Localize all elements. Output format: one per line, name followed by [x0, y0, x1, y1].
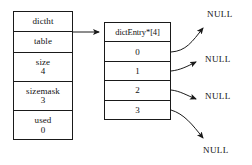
struct-field-table: table: [14, 32, 72, 53]
null-label-0: NULL: [207, 9, 233, 19]
null-label-3: NULL: [203, 145, 229, 155]
dictht-struct-box: dictht table size 4 sizemask 3 used 0: [13, 11, 73, 140]
diagram-canvas: dictht table size 4 sizemask 3 used 0 di…: [0, 0, 252, 165]
edge-slot1-to-null: [171, 62, 196, 71]
edge-slot2-to-null: [171, 90, 196, 99]
struct-name-label: dictht: [32, 17, 53, 26]
struct-header-row: dictht: [14, 12, 72, 32]
struct-field-sizemask-value: 3: [41, 96, 46, 105]
bucket-slot-3: 3: [105, 101, 170, 119]
edge-slot3-to-null: [171, 110, 203, 138]
null-label-1: NULL: [205, 54, 231, 64]
bucket-slot-2: 2: [105, 81, 170, 100]
struct-field-size: size 4: [14, 53, 72, 82]
struct-field-used-value: 0: [41, 126, 46, 135]
bucket-slot-1: 1: [105, 62, 170, 81]
null-label-2: NULL: [205, 91, 231, 101]
bucket-array-header: dictEntry*[4]: [105, 23, 170, 42]
edge-slot0-to-null: [171, 28, 203, 52]
struct-field-size-value: 4: [41, 67, 46, 76]
struct-field-table-label: table: [34, 37, 52, 46]
struct-field-used: used 0: [14, 111, 72, 140]
struct-field-sizemask: sizemask 3: [14, 82, 72, 111]
bucket-array-box: dictEntry*[4] 0 1 2 3: [104, 22, 171, 120]
bucket-slot-0: 0: [105, 42, 170, 61]
